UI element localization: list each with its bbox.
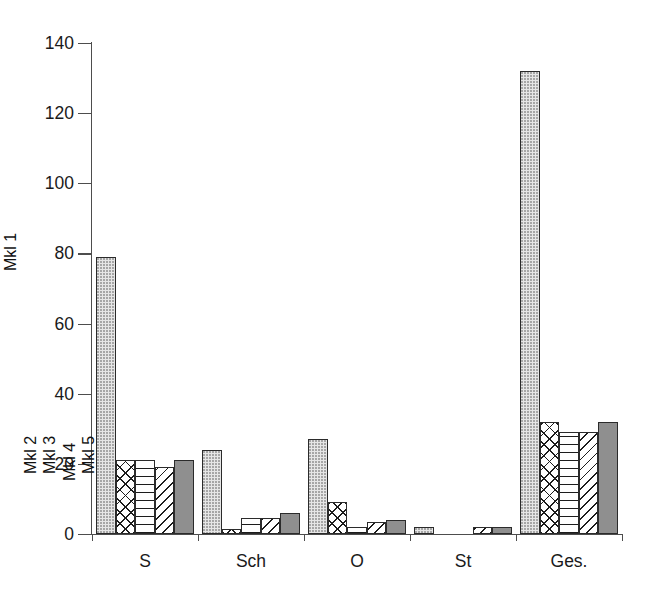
bar bbox=[414, 527, 434, 534]
bar bbox=[579, 432, 599, 534]
y-tick-label: 100 bbox=[0, 173, 74, 194]
bar bbox=[540, 422, 560, 534]
bar bbox=[598, 422, 618, 534]
bar-group bbox=[308, 43, 406, 534]
x-tick bbox=[516, 534, 517, 541]
bar-group bbox=[414, 43, 512, 534]
y-tick-label: 60 bbox=[0, 313, 74, 334]
y-tick-label: 140 bbox=[0, 33, 74, 54]
series-annotation: Mkl 4 bbox=[61, 443, 79, 481]
bar bbox=[174, 460, 194, 534]
x-tick bbox=[304, 534, 305, 541]
bar-group bbox=[96, 43, 194, 534]
bar-chart: 020406080100120140 SSchOStGes. Mkl 1Mkl … bbox=[0, 0, 666, 606]
y-tick-label: 0 bbox=[0, 524, 74, 545]
x-tick-label: O bbox=[350, 551, 364, 572]
series-annotation: Mkl 2 bbox=[22, 436, 40, 474]
x-tick bbox=[92, 534, 93, 541]
bar-group bbox=[520, 43, 618, 534]
series-annotation: Mkl 5 bbox=[80, 436, 98, 474]
bar bbox=[328, 502, 348, 534]
bar bbox=[347, 527, 367, 534]
bar bbox=[367, 522, 387, 534]
bar bbox=[261, 518, 281, 534]
x-tick-label: Sch bbox=[236, 551, 266, 572]
bar bbox=[135, 460, 155, 534]
bar bbox=[155, 467, 175, 534]
x-tick-label: St bbox=[455, 551, 472, 572]
y-tick bbox=[78, 394, 91, 395]
x-tick bbox=[198, 534, 199, 541]
bar-group bbox=[202, 43, 300, 534]
y-tick bbox=[78, 324, 91, 325]
bar bbox=[473, 527, 493, 534]
bar bbox=[116, 460, 136, 534]
y-tick bbox=[78, 253, 91, 254]
bar bbox=[96, 257, 116, 534]
series-annotation: Mkl 1 bbox=[2, 233, 20, 271]
bar bbox=[308, 439, 328, 534]
x-tick-label: Ges. bbox=[551, 551, 588, 572]
bar bbox=[202, 450, 222, 534]
x-tick-label: S bbox=[139, 551, 151, 572]
y-tick bbox=[78, 43, 91, 44]
y-tick bbox=[78, 183, 91, 184]
y-tick bbox=[78, 534, 91, 535]
bar bbox=[520, 71, 540, 534]
bar bbox=[492, 527, 512, 534]
bar bbox=[280, 513, 300, 534]
bar bbox=[222, 529, 242, 534]
y-tick bbox=[78, 113, 91, 114]
bar bbox=[241, 518, 261, 534]
x-tick bbox=[410, 534, 411, 541]
bar bbox=[386, 520, 406, 534]
y-tick-label: 120 bbox=[0, 103, 74, 124]
series-annotation: Mkl 3 bbox=[41, 436, 59, 474]
plot-area bbox=[92, 43, 622, 534]
y-tick-label: 40 bbox=[0, 383, 74, 404]
bar bbox=[559, 432, 579, 534]
x-axis-line bbox=[91, 534, 622, 535]
x-tick bbox=[622, 534, 623, 541]
